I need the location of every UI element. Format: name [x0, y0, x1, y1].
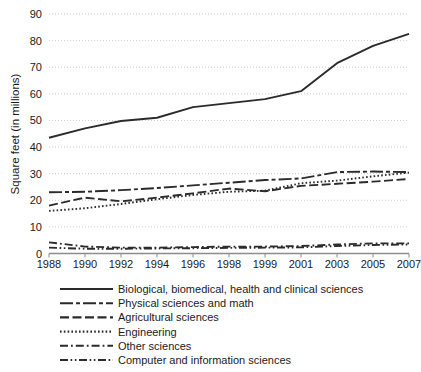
- x-tick-label-2003: 2003: [325, 258, 349, 270]
- x-tick-label-1988: 1988: [37, 258, 61, 270]
- y-tick-label-80: 80: [30, 35, 42, 47]
- legend-label-1: Physical sciences and math: [118, 297, 254, 309]
- legend-label-4: Other sciences: [118, 340, 192, 352]
- chart-figure: 9080706050403020100 19881990199219941996…: [0, 0, 421, 372]
- y-axis-title: Square feet (in millions): [9, 73, 21, 194]
- y-tick-label-40: 40: [30, 141, 42, 153]
- x-axis-tick-labels: 1988199019921994199619981999200120032005…: [37, 258, 421, 270]
- y-tick-label-90: 90: [30, 8, 42, 20]
- x-tick-label-1994: 1994: [145, 258, 169, 270]
- x-tick-label-2005: 2005: [361, 258, 385, 270]
- legend-label-5: Computer and information sciences: [118, 354, 292, 366]
- y-tick-label-50: 50: [30, 114, 42, 126]
- y-tick-label-30: 30: [30, 168, 42, 180]
- y-tick-label-10: 10: [30, 221, 42, 233]
- y-tick-label-60: 60: [30, 88, 42, 100]
- x-tick-label-2001: 2001: [289, 258, 313, 270]
- x-tick-label-1992: 1992: [109, 258, 133, 270]
- legend-label-3: Engineering: [118, 326, 177, 338]
- x-tick-label-2007: 2007: [397, 258, 421, 270]
- x-tick-label-1990: 1990: [73, 258, 97, 270]
- y-tick-label-70: 70: [30, 61, 42, 73]
- legend-label-2: Agricultural sciences: [118, 311, 219, 323]
- x-tick-label-1998: 1998: [217, 258, 241, 270]
- legend-label-0: Biological, biomedical, health and clini…: [118, 283, 364, 295]
- x-tick-label-1999: 1999: [253, 258, 277, 270]
- line-chart: 9080706050403020100 19881990199219941996…: [0, 0, 421, 372]
- y-tick-label-20: 20: [30, 194, 42, 206]
- x-tick-label-1996: 1996: [181, 258, 205, 270]
